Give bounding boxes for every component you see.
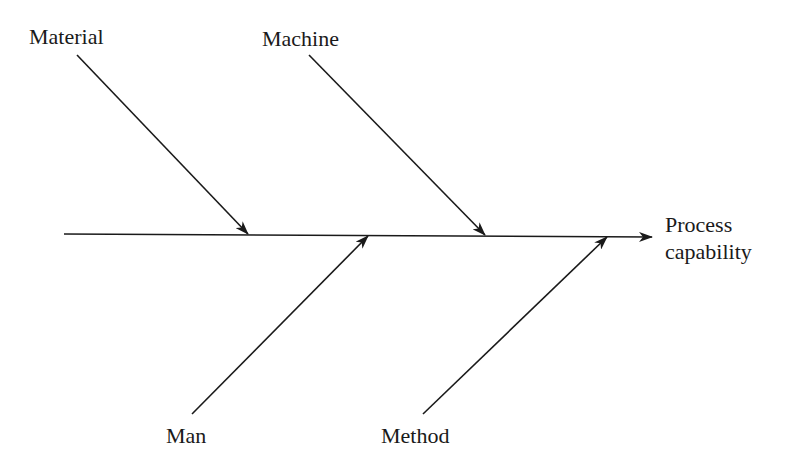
cause-label-man: Man	[166, 424, 206, 448]
spine-arrow	[64, 234, 652, 237]
cause-label-material: Material	[29, 25, 104, 49]
effect-label-line2: capability	[665, 240, 752, 264]
cause-label-method: Method	[381, 424, 449, 448]
bone-method-arrow	[423, 237, 607, 414]
fishbone-diagram: Material Machine Man Method Process capa…	[0, 0, 811, 463]
bone-material-arrow	[77, 55, 248, 234]
cause-label-machine: Machine	[262, 27, 339, 51]
effect-label-line1: Process	[665, 213, 732, 237]
bone-man-arrow	[192, 236, 368, 414]
bone-machine-arrow	[309, 55, 485, 235]
